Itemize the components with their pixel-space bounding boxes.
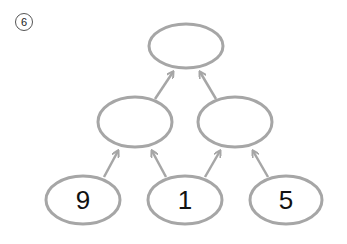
node-top: [149, 24, 223, 68]
arrow-midleft-to-top: [155, 72, 173, 99]
node-bottom-middle-value: 1: [178, 185, 192, 215]
arrow-bm-to-midleft: [152, 151, 166, 177]
node-bottom-right-value: 5: [279, 185, 293, 215]
arrow-midright-to-top: [200, 72, 216, 99]
node-bottom-left-value: 9: [76, 185, 90, 215]
node-mid-left: [98, 97, 172, 147]
addition-pyramid-diagram: 9 1 5: [0, 0, 347, 244]
arrow-bl-to-midleft: [104, 151, 118, 177]
arrow-br-to-midright: [253, 151, 268, 177]
arrow-bm-to-midright: [205, 151, 220, 177]
node-mid-right: [198, 97, 272, 147]
